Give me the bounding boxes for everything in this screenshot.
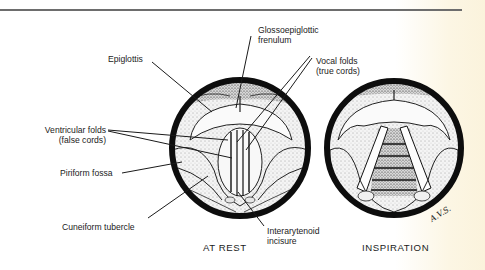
- label-ventricular-folds: Ventricular folds (false cords): [26, 125, 106, 145]
- label-cuneiform-tubercle: Cuneiform tubercle: [62, 222, 135, 232]
- label-glossoepiglottic-frenulum: Glossoepiglottic frenulum: [258, 25, 319, 45]
- label-line: Piriform fossa: [60, 168, 113, 178]
- label-vocal-folds: Vocal folds (true cords): [316, 56, 360, 76]
- label-epiglottis: Epiglottis: [108, 54, 143, 64]
- label-interarytenoid-incisure: Interarytenoid incisure: [267, 226, 320, 246]
- label-line: (true cords): [316, 66, 360, 76]
- label-line: Epiglottis: [108, 54, 143, 64]
- label-line: Cuneiform tubercle: [62, 222, 135, 232]
- label-piriform-fossa: Piriform fossa: [60, 168, 113, 178]
- label-line: Vocal folds: [316, 56, 360, 66]
- at-rest-view: [172, 80, 308, 216]
- label-line: Interarytenoid: [267, 226, 320, 236]
- label-line: frenulum: [258, 35, 319, 45]
- label-line: (false cords): [26, 135, 106, 145]
- caption-at-rest: AT REST: [203, 242, 247, 253]
- inspiration-view: [327, 80, 461, 216]
- caption-inspiration: INSPIRATION: [362, 242, 429, 253]
- label-line: Ventricular folds: [26, 125, 106, 135]
- figure-page: A.V.S. Glossoepiglottic frenulum Epiglot…: [0, 0, 485, 270]
- label-line: Glossoepiglottic: [258, 25, 319, 35]
- label-line: incisure: [267, 236, 320, 246]
